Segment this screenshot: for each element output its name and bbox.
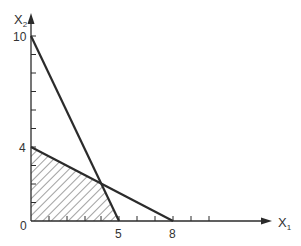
linear-program-chart: 0 5 8 4 10 X1 X2 (0, 0, 301, 246)
x-axis-arrow-icon (261, 218, 272, 225)
y-axis-arrow-icon (28, 13, 35, 24)
x-tick-label-5: 5 (115, 227, 122, 241)
y-axis-label: X2 (14, 12, 28, 29)
x-axis-label: X1 (278, 215, 292, 232)
origin-label: 0 (20, 219, 27, 233)
y-tick-label-4: 4 (19, 141, 26, 155)
feasible-region (31, 147, 119, 221)
y-tick-label-10: 10 (13, 30, 27, 44)
x-tick-label-8: 8 (169, 227, 176, 241)
